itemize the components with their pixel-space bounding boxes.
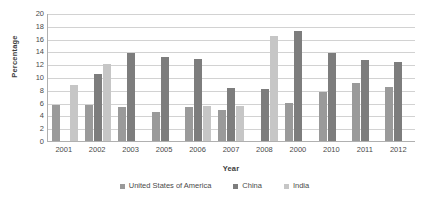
y-axis-tick-label: 20 (24, 10, 44, 18)
bar-group (215, 14, 248, 141)
bar (152, 112, 160, 141)
bar-groups (48, 14, 415, 141)
bar-group (382, 14, 415, 141)
bar-group (315, 14, 348, 141)
y-axis-tick-label: 12 (24, 61, 44, 69)
legend-swatch-icon (284, 184, 289, 189)
bar (85, 105, 93, 141)
bar (227, 88, 235, 141)
bar (185, 107, 193, 141)
bar (361, 60, 369, 141)
bar-group (148, 14, 181, 141)
bar (203, 106, 211, 141)
bar (103, 64, 111, 141)
bar-group (248, 14, 281, 141)
bar (127, 53, 135, 141)
x-axis-tick-label: 2005 (147, 145, 180, 154)
x-axis-tick-label: 2007 (214, 145, 247, 154)
y-axis-tick-label: 16 (24, 36, 44, 44)
bar (52, 105, 60, 141)
bar-group (115, 14, 148, 141)
y-axis-tick-label: 0 (24, 138, 44, 146)
legend-label: India (293, 182, 309, 190)
x-axis-title: Year (47, 164, 415, 173)
y-axis-tick-label: 4 (24, 113, 44, 121)
y-axis-tick-labels: 02468101214161820 (24, 14, 44, 142)
bar-group (181, 14, 214, 141)
bar (261, 89, 269, 141)
legend-entry[interactable]: United States of America (120, 182, 212, 190)
y-axis-tick-label: 6 (24, 100, 44, 108)
y-axis-tick-label: 18 (24, 23, 44, 31)
bar-group (48, 14, 81, 141)
y-axis-tick-label: 8 (24, 87, 44, 95)
bar (94, 74, 102, 141)
y-axis-title: Percentage (10, 21, 19, 93)
x-axis-tick-label: 2008 (248, 145, 281, 154)
x-axis-tick-label: 2002 (80, 145, 113, 154)
legend-entry[interactable]: India (284, 182, 309, 190)
bar (352, 83, 360, 141)
x-axis-tick-label: 2001 (47, 145, 80, 154)
x-axis-tick-label: 2011 (348, 145, 381, 154)
bar (385, 87, 393, 141)
legend-entry[interactable]: China (233, 182, 262, 190)
bar (70, 85, 78, 141)
legend-swatch-icon (120, 184, 125, 189)
bar (328, 53, 336, 141)
chart-legend: United States of AmericaChinaIndia (0, 182, 429, 190)
x-axis-tick-label: 2012 (382, 145, 415, 154)
bar (294, 31, 302, 141)
legend-label: United States of America (129, 182, 212, 190)
bar (319, 92, 327, 141)
bar (194, 59, 202, 141)
x-axis-tick-label: 2003 (114, 145, 147, 154)
bar (285, 103, 293, 141)
y-axis-tick-label: 14 (24, 49, 44, 57)
y-axis-tick-label: 2 (24, 125, 44, 133)
plot-area (47, 14, 415, 142)
legend-label: China (242, 182, 262, 190)
x-axis-tick-label: 2010 (315, 145, 348, 154)
bar (118, 107, 126, 141)
bar (236, 106, 244, 141)
x-axis-tick-label: 2000 (281, 145, 314, 154)
bar (218, 110, 226, 141)
y-axis-tick-label: 10 (24, 74, 44, 82)
x-axis-tick-labels: 2001200220032005200620072008200020102011… (47, 145, 415, 154)
bar (270, 36, 278, 141)
legend-swatch-icon (233, 184, 238, 189)
bar-chart: Percentage 02468101214161820 20012002200… (0, 0, 429, 204)
bar (394, 62, 402, 141)
bar-group (348, 14, 381, 141)
bar-group (282, 14, 315, 141)
x-axis-tick-label: 2006 (181, 145, 214, 154)
bar (161, 57, 169, 141)
bar-group (81, 14, 114, 141)
